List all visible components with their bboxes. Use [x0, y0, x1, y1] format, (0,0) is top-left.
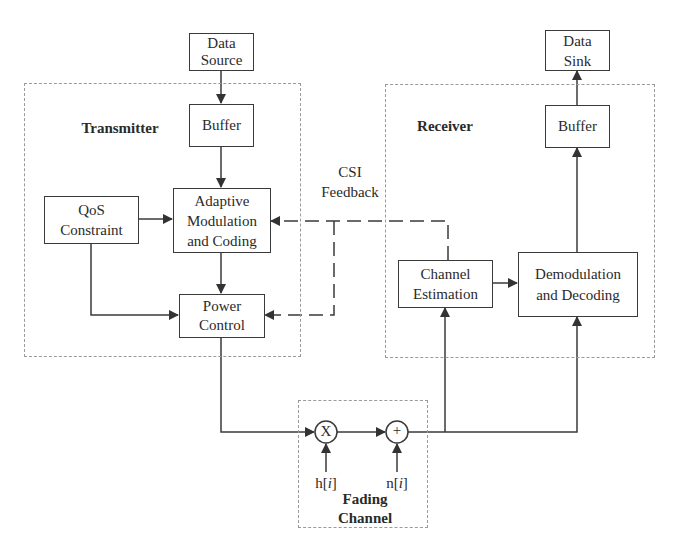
qos-line1: QoS: [78, 200, 105, 220]
power-line2: Control: [199, 316, 245, 335]
amc-line2: Modulation: [187, 211, 257, 231]
data-source-line2: Source: [201, 52, 243, 69]
power-line1: Power: [203, 297, 241, 316]
demodulation-decoding-block: Demodulation and Decoding: [518, 252, 638, 317]
tx-buffer-label: Buffer: [202, 117, 241, 134]
tx-buffer-block: Buffer: [189, 104, 254, 147]
n-close: ]: [403, 475, 408, 491]
data-sink-line1: Data: [563, 31, 591, 51]
h-close: ]: [332, 475, 337, 491]
csi-label-line1: CSI: [305, 162, 395, 182]
demod-line1: Demodulation: [535, 264, 621, 285]
amc-line1: Adaptive: [195, 191, 250, 211]
qos-line2: Constraint: [60, 220, 123, 240]
data-source-block: Data Source: [189, 33, 254, 71]
channel-estimation-block: Channel Estimation: [398, 260, 493, 308]
n-base: n[: [386, 475, 399, 491]
rx-buffer-label: Buffer: [558, 118, 597, 135]
multiply-symbol: X: [316, 423, 336, 440]
fading-channel-label-line1: Fading: [320, 490, 410, 509]
fading-channel-label: Fading Channel: [320, 490, 410, 528]
transmitter-label: Transmitter: [68, 120, 172, 137]
fading-channel-label-line2: Channel: [320, 509, 410, 528]
h-base: h[: [315, 475, 328, 491]
data-sink-line2: Sink: [564, 51, 592, 71]
fading-coefficient-label: h[i]: [306, 475, 346, 492]
noise-label: n[i]: [377, 475, 417, 492]
estimation-line2: Estimation: [413, 284, 478, 304]
power-control-block: Power Control: [179, 294, 265, 338]
amc-line3: and Coding: [187, 231, 257, 251]
csi-feedback-label: CSI Feedback: [305, 162, 395, 202]
adaptive-modulation-coding-block: Adaptive Modulation and Coding: [173, 188, 271, 253]
data-source-line1: Data: [207, 35, 235, 52]
data-sink-block: Data Sink: [545, 30, 610, 71]
add-symbol: +: [387, 422, 407, 439]
csi-label-line2: Feedback: [305, 182, 395, 202]
rx-buffer-block: Buffer: [545, 105, 610, 148]
demod-line2: and Decoding: [536, 285, 620, 306]
qos-constraint-block: QoS Constraint: [44, 196, 139, 244]
receiver-label: Receiver: [400, 118, 490, 135]
estimation-line1: Channel: [421, 264, 471, 284]
